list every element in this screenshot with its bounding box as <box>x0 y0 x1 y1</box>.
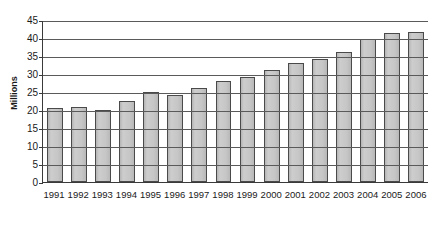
bar-slot <box>356 21 380 182</box>
gridline <box>43 39 428 40</box>
y-axis-tick-mark <box>39 57 43 58</box>
bar-slot <box>284 21 308 182</box>
x-axis-tick-label: 1995 <box>139 186 163 204</box>
x-axis-tick-label: 2001 <box>283 186 307 204</box>
chart-screenshot: Millions 454035302520151050 199119921993… <box>0 0 433 225</box>
bar-1991[interactable] <box>47 108 63 182</box>
y-axis-tick-labels: 454035302520151050 <box>16 0 40 225</box>
bar-1996[interactable] <box>167 95 183 182</box>
bar-2006[interactable] <box>408 32 424 182</box>
gridline <box>43 57 428 58</box>
bar-chart: Millions 454035302520151050 199119921993… <box>0 0 433 225</box>
bar-slot <box>91 21 115 182</box>
bar-1997[interactable] <box>191 88 207 182</box>
gridline <box>43 129 428 130</box>
x-axis-tick-label: 1992 <box>66 186 90 204</box>
x-axis-tick-label: 2003 <box>332 186 356 204</box>
bar-slot <box>67 21 91 182</box>
y-axis-tick-mark <box>39 39 43 40</box>
y-axis-tick-mark <box>39 93 43 94</box>
y-axis-tick-label: 45 <box>27 16 38 26</box>
x-axis-tick-label: 1996 <box>163 186 187 204</box>
x-axis-tick-labels: 1991199219931994199519961997199819992000… <box>42 186 428 204</box>
y-axis-tick-mark <box>39 183 43 184</box>
x-axis-tick-label: 1991 <box>42 186 66 204</box>
bar-1992[interactable] <box>71 107 87 182</box>
bar-slot <box>43 21 67 182</box>
bar-slot <box>139 21 163 182</box>
bar-slot <box>404 21 428 182</box>
x-axis-tick-label: 2005 <box>380 186 404 204</box>
y-axis-tick-label: 10 <box>27 142 38 152</box>
y-axis-tick-label: 35 <box>27 52 38 62</box>
bar-slot <box>163 21 187 182</box>
y-axis-tick-mark <box>39 147 43 148</box>
bar-slot <box>115 21 139 182</box>
y-axis-tick-label: 0 <box>32 178 38 188</box>
bar-2003[interactable] <box>336 52 352 182</box>
gridline <box>43 147 428 148</box>
y-axis-tick-mark <box>39 111 43 112</box>
x-axis-tick-label: 1998 <box>211 186 235 204</box>
plot-area <box>42 21 428 183</box>
bar-slot <box>187 21 211 182</box>
x-axis-tick-label: 1994 <box>114 186 138 204</box>
y-axis-tick-label: 40 <box>27 34 38 44</box>
y-axis-tick-mark <box>39 129 43 130</box>
bar-1995[interactable] <box>143 92 159 182</box>
x-axis-tick-label: 2002 <box>307 186 331 204</box>
bar-slot <box>236 21 260 182</box>
bar-slot <box>260 21 284 182</box>
x-axis-tick-label: 2004 <box>356 186 380 204</box>
y-axis-tick-label: 25 <box>27 88 38 98</box>
bar-2005[interactable] <box>384 33 400 182</box>
x-axis-tick-label: 1999 <box>235 186 259 204</box>
x-axis-tick-label: 2000 <box>259 186 283 204</box>
gridline <box>43 93 428 94</box>
y-axis-tick-mark <box>39 75 43 76</box>
bar-slot <box>380 21 404 182</box>
y-axis-tick-mark <box>39 21 43 22</box>
bar-group <box>43 21 428 182</box>
gridline <box>43 75 428 76</box>
gridline <box>43 165 428 166</box>
y-axis-tick-label: 15 <box>27 124 38 134</box>
bar-slot <box>332 21 356 182</box>
x-axis-tick-label: 2006 <box>404 186 428 204</box>
bar-slot <box>211 21 235 182</box>
y-axis-tick-mark <box>39 165 43 166</box>
y-axis-tick-label: 20 <box>27 106 38 116</box>
gridline <box>43 111 428 112</box>
y-axis-tick-label: 5 <box>32 160 38 170</box>
gridline <box>43 21 428 22</box>
bar-1998[interactable] <box>216 81 232 182</box>
y-axis-tick-label: 30 <box>27 70 38 80</box>
x-axis-tick-label: 1993 <box>90 186 114 204</box>
bar-slot <box>308 21 332 182</box>
bar-1994[interactable] <box>119 101 135 182</box>
x-axis-tick-label: 1997 <box>187 186 211 204</box>
